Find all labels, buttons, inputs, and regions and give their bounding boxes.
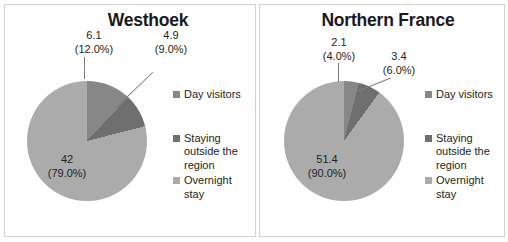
data-label-percent: (79.0%) <box>38 167 96 181</box>
data-label-value: 51.4 <box>296 153 358 167</box>
legend-item-label: Staying outside the region <box>436 132 490 173</box>
legend-item-staying-outside[interactable]: Staying outside the region <box>425 132 505 173</box>
legend-item-day-visitors[interactable]: Day visitors <box>425 88 505 102</box>
legend-spacer <box>173 104 253 132</box>
data-label-value: 4.9 <box>145 29 197 43</box>
data-label-staying-outside: 4.9 (9.0%) <box>145 29 197 56</box>
legend-item-overnight-stay[interactable]: Overnight stay <box>425 174 505 201</box>
data-label-value: 3.4 <box>373 50 425 64</box>
pie-graphic <box>284 81 404 201</box>
legend-item-label: Day visitors <box>436 88 493 102</box>
pie-graphic <box>27 81 147 201</box>
data-label-value: 6.1 <box>68 29 120 43</box>
data-label-percent: (9.0%) <box>145 43 197 57</box>
legend-item-staying-outside[interactable]: Staying outside the region <box>173 132 253 173</box>
legend-swatch-icon <box>173 135 180 142</box>
legend-item-overnight-stay[interactable]: Overnight stay <box>173 174 253 201</box>
data-label-overnight-stay: 51.4 (90.0%) <box>296 153 358 180</box>
data-label-percent: (4.0%) <box>313 50 365 64</box>
legend: Day visitors Staying outside the region … <box>425 88 505 203</box>
data-label-percent: (12.0%) <box>68 43 120 57</box>
legend-swatch-icon <box>425 177 432 184</box>
pie-chart-northern-france <box>284 81 404 201</box>
chart-panel-northern-france: Northern France 2.1 (4.0%) 3.4 (6.0%) 51… <box>259 4 505 237</box>
legend-item-day-visitors[interactable]: Day visitors <box>173 88 253 102</box>
chart-title: Northern France <box>260 10 508 31</box>
legend-swatch-icon <box>173 91 180 98</box>
data-label-value: 42 <box>38 153 96 167</box>
legend-item-label: Overnight stay <box>436 174 484 201</box>
data-label-staying-outside: 3.4 (6.0%) <box>373 50 425 77</box>
data-label-day-visitors: 2.1 (4.0%) <box>313 36 365 63</box>
legend-item-label: Day visitors <box>184 88 241 102</box>
figure-container: Westhoek 6.1 (12.0%) 4.9 (9.0%) 42 (79.0… <box>0 0 508 242</box>
pie-chart-westhoek <box>27 81 147 201</box>
legend-swatch-icon <box>425 135 432 142</box>
chart-panel-westhoek: Westhoek 6.1 (12.0%) 4.9 (9.0%) 42 (79.0… <box>4 4 256 237</box>
chart-title: Westhoek <box>5 10 273 31</box>
data-label-percent: (90.0%) <box>296 167 358 181</box>
legend-swatch-icon <box>173 177 180 184</box>
legend-item-label: Overnight stay <box>184 174 232 201</box>
leader-line-day-visitors <box>84 57 85 79</box>
legend: Day visitors Staying outside the region … <box>173 88 253 203</box>
leader-line-day-visitors <box>338 63 339 82</box>
data-label-percent: (6.0%) <box>373 64 425 78</box>
data-label-day-visitors: 6.1 (12.0%) <box>68 29 120 56</box>
legend-spacer <box>425 104 505 132</box>
data-label-value: 2.1 <box>313 36 365 50</box>
legend-item-label: Staying outside the region <box>184 132 238 173</box>
data-label-overnight-stay: 42 (79.0%) <box>38 153 96 180</box>
legend-swatch-icon <box>425 91 432 98</box>
